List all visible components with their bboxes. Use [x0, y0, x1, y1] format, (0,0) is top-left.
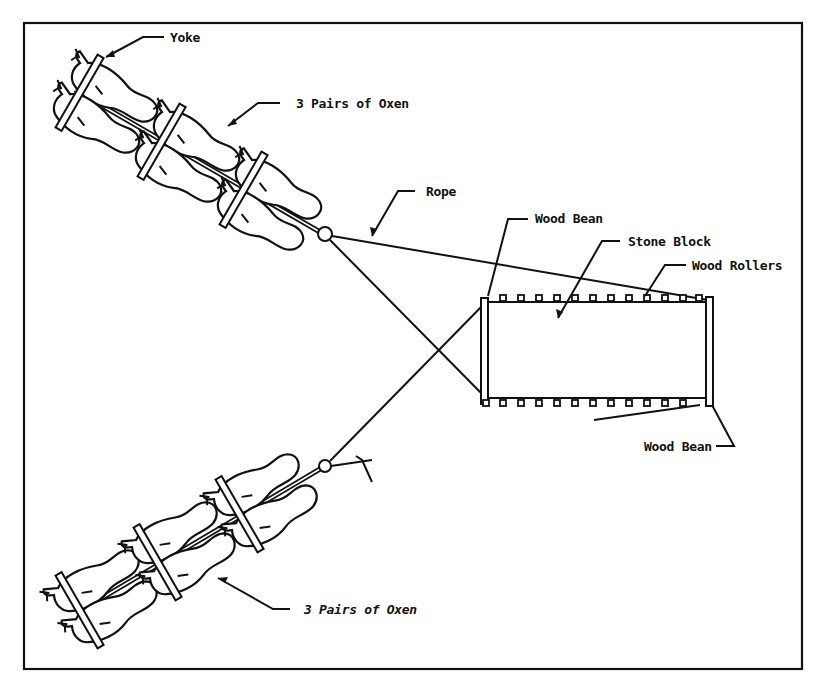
oxen-team-top: [36, 44, 332, 265]
wood-beam-left: [481, 298, 488, 404]
label-wood-beam-bottom: Wood Bean: [644, 439, 712, 454]
stone-block-assembly: [481, 295, 713, 406]
wood-rollers-bottom: [483, 400, 686, 406]
label-stone-block: Stone Block: [628, 234, 711, 249]
wood-rollers-top: [500, 295, 702, 301]
wood-beam-right: [706, 297, 713, 406]
oxen-team-bottom: [36, 439, 331, 659]
stone-block: [488, 302, 706, 398]
stone-hauling-diagram: Yoke 3 Pairs of Oxen Rope Wood Bean Ston…: [0, 0, 821, 688]
label-yoke: Yoke: [170, 30, 201, 45]
label-wood-beam-top: Wood Bean: [535, 211, 603, 226]
label-wood-rollers: Wood Rollers: [692, 258, 782, 273]
rope-ring-bottom: [319, 460, 331, 472]
label-rope: Rope: [426, 184, 457, 199]
label-oxen-bottom: 3 Pairs of Oxen: [303, 602, 417, 617]
label-oxen-top: 3 Pairs of Oxen: [296, 96, 409, 111]
rope-ring-top: [318, 227, 332, 241]
